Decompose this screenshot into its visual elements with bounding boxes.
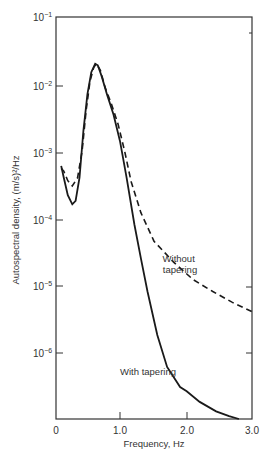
x-axis-title: Frequency, Hz [123, 438, 184, 449]
y-axis-ticks [56, 33, 252, 419]
annotation-with-tapering: With tapering [120, 366, 176, 377]
y-axis-tick-labels: 10−1 10−2 10−3 10−4 10−5 10−6 [33, 11, 52, 359]
y-tick-label: 10−6 [33, 347, 52, 359]
y-tick-label: 10−3 [33, 147, 52, 159]
plot-frame [56, 17, 252, 419]
autospectral-density-chart: 10−1 10−2 10−3 10−4 10−5 10−6 0 1.0 2.0 … [0, 0, 270, 464]
series-without-tapering [61, 64, 252, 312]
x-tick-label: 3.0 [245, 425, 259, 436]
x-tick-label: 0 [53, 425, 59, 436]
annotation-without-tapering: Without tapering [163, 253, 198, 275]
x-tick-label: 2.0 [180, 425, 194, 436]
x-tick-label: 1.0 [113, 425, 127, 436]
y-tick-label: 10−4 [33, 214, 52, 226]
y-axis-title: Autospectral density, (m/s)²/Hz [10, 155, 21, 284]
y-tick-label: 10−2 [33, 80, 52, 92]
y-tick-label: 10−1 [33, 11, 52, 23]
x-axis-tick-labels: 0 1.0 2.0 3.0 [53, 425, 259, 436]
y-tick-label: 10−5 [33, 280, 52, 292]
